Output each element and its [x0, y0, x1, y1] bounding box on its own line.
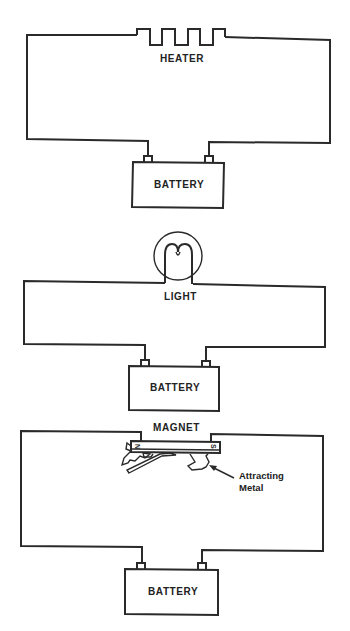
- magnet-label: MAGNET: [153, 422, 200, 433]
- battery-icon: BATTERY: [125, 563, 218, 615]
- heater-circuit: HEATER BATTERY: [27, 29, 330, 208]
- metal-fragment-right: [188, 454, 209, 470]
- magnet-circuit: MAGNET N S Attracting Metal BATTERY: [21, 422, 323, 615]
- magnet-bar: [131, 441, 220, 453]
- circuit-diagram: HEATER BATTERY LIGHT BATTERY MAGNET: [0, 0, 350, 631]
- annotation-line-1: Attracting: [239, 470, 284, 481]
- magnet-pole-north: N: [134, 444, 141, 449]
- magnet-pole-south: S: [210, 444, 217, 449]
- annotation-line-2: Metal: [239, 482, 263, 493]
- battery-label: BATTERY: [148, 586, 198, 597]
- light-bulb-icon: [154, 232, 202, 284]
- heater-label: HEATER: [160, 53, 204, 64]
- battery-icon: BATTERY: [132, 156, 224, 208]
- heater-element-icon: [137, 29, 225, 45]
- battery-icon: BATTERY: [129, 360, 219, 411]
- bulb-glass: [154, 232, 202, 280]
- battery-label: BATTERY: [154, 179, 204, 190]
- battery-label: BATTERY: [150, 382, 200, 393]
- magnet-bar-icon: N S: [131, 441, 220, 453]
- light-label: LIGHT: [164, 291, 197, 302]
- attracting-metal-arrow-icon: [209, 465, 234, 478]
- light-circuit: LIGHT BATTERY: [24, 232, 325, 411]
